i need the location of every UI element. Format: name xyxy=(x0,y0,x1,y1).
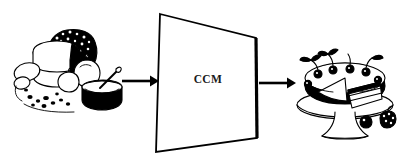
output-illustration-hit xyxy=(292,42,396,140)
figure-canvas: CCM xyxy=(0,0,403,163)
input-illustration-hit xyxy=(12,25,124,117)
ccm-plane-hit[interactable] xyxy=(155,13,259,153)
